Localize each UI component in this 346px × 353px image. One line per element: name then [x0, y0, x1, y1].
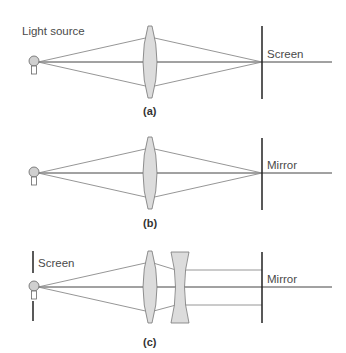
screen-label: Screen: [267, 48, 303, 61]
screen-label: Screen: [38, 257, 74, 270]
light-bulb-icon: [29, 56, 39, 74]
convex-lens: [143, 251, 157, 323]
light-bulb-icon: [29, 167, 39, 185]
light-bulb-icon: [29, 281, 39, 299]
convex-lens: [143, 137, 157, 209]
panel-b: [29, 137, 332, 210]
panel-c: [29, 251, 332, 323]
mirror-label: Mirror: [267, 159, 297, 172]
light-source-label: Light source: [22, 25, 54, 38]
caption-a: (a): [143, 105, 156, 117]
caption-c: (c): [143, 336, 156, 348]
mirror-label: Mirror: [267, 273, 297, 286]
caption-b: (b): [143, 217, 157, 229]
convex-lens: [143, 26, 157, 98]
